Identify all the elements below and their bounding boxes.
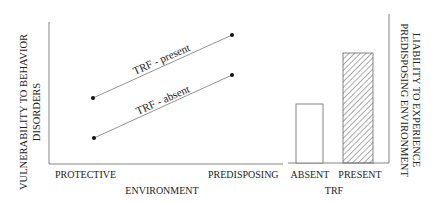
point-trf-absent-predisposing: [230, 73, 234, 77]
right-y-axis-label-2: PREDISPOSING ENVIRONMENT: [399, 23, 410, 177]
x-tick-predisposing: PREDISPOSING: [208, 169, 279, 180]
x-tick-present: PRESENT: [338, 169, 381, 180]
x-tick-protective: PROTECTIVE: [55, 169, 116, 180]
right-y-axis-label: LIABILITY TO EXPERIENCE: [411, 33, 422, 168]
point-trf-absent-protective: [92, 136, 96, 140]
x-tick-absent: ABSENT: [291, 169, 330, 180]
label-trf-present: TRF - present: [131, 41, 192, 77]
right-x-axis-label: TRF: [325, 185, 344, 196]
point-trf-present-protective: [91, 96, 95, 100]
label-trf-absent: TRF - absent: [134, 82, 191, 116]
bar-chart: ABSENT PRESENT TRF LIABILITY TO EXPERIEN…: [288, 14, 422, 196]
left-y-axis-label: VULNERABILITY TO BEHAVIOR: [18, 34, 29, 190]
line-chart: VULNERABILITY TO BEHAVIOR DISORDERS TRF …: [18, 22, 283, 196]
figure: VULNERABILITY TO BEHAVIOR DISORDERS TRF …: [0, 0, 438, 203]
line-trf-absent: [94, 75, 232, 138]
bar-trf-absent: [296, 104, 323, 163]
left-y-axis-label-2: DISORDERS: [31, 83, 42, 142]
bar-trf-present: [343, 53, 373, 163]
point-trf-present-predisposing: [230, 33, 234, 37]
line-trf-present: [93, 35, 232, 98]
left-x-axis-label: ENVIRONMENT: [125, 185, 198, 196]
